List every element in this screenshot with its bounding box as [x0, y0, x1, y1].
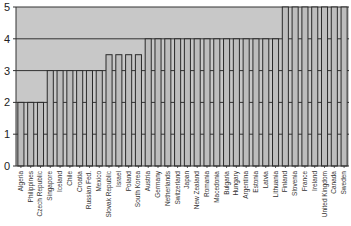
bar: [145, 39, 151, 166]
x-tick-label: Czech Republic: [36, 170, 44, 216]
x-tick-label: Romania: [203, 171, 210, 197]
bar: [214, 39, 220, 166]
y-tick-label: 5: [4, 1, 10, 13]
bar: [341, 7, 347, 166]
bar: [37, 102, 43, 166]
y-tick-label: 4: [4, 33, 10, 45]
bar: [273, 39, 279, 166]
bar: [204, 39, 210, 166]
x-axis: AlgeriaPhilippinesCzech RepublicSingapor…: [16, 166, 349, 218]
bar: [194, 39, 200, 166]
y-tick-label: 2: [4, 96, 10, 108]
x-tick-label: Israel: [115, 170, 122, 186]
x-tick-label: Croatia: [76, 171, 83, 192]
bar: [116, 55, 122, 166]
plot-background: [16, 7, 349, 166]
bar: [106, 55, 112, 166]
y-tick-label: 1: [4, 128, 10, 140]
x-tick-label: Singapore: [46, 171, 54, 201]
x-tick-label: Argentina: [242, 171, 250, 199]
x-tick-label: Estonia: [252, 171, 259, 193]
x-tick-label: Slovak Republic: [105, 170, 113, 217]
x-tick-label: Canada: [330, 171, 337, 194]
bar: [67, 71, 73, 166]
bar: [135, 55, 141, 166]
x-tick-label: Philippines: [27, 170, 35, 202]
x-tick-label: Algeria: [17, 171, 25, 192]
bar: [57, 71, 63, 166]
x-tick-label: South Korea: [134, 171, 141, 208]
y-tick-label: 3: [4, 65, 10, 77]
bar: [184, 39, 190, 166]
x-tick-label: Hungary: [232, 170, 240, 195]
x-tick-label: France: [301, 171, 308, 192]
x-tick-label: Ireland: [311, 171, 318, 191]
x-tick-label: Russian Fed.: [85, 171, 92, 209]
x-tick-label: Bulgaria: [223, 171, 231, 195]
x-tick-label: Slovenia: [291, 171, 298, 196]
x-tick-label: Netherlands: [164, 170, 171, 206]
bar: [312, 7, 318, 166]
x-tick-label: Lithuania: [272, 171, 279, 198]
x-tick-label: Chile: [66, 171, 73, 186]
bar: [77, 71, 83, 166]
bar-chart: 012345 AlgeriaPhilippinesCzech RepublicS…: [0, 0, 351, 226]
plot-area: [16, 7, 349, 166]
x-tick-label: United Kingdom: [321, 171, 329, 217]
bar: [155, 39, 161, 166]
bar: [282, 7, 288, 166]
x-tick-label: Japan: [183, 171, 191, 189]
x-tick-label: Poland: [125, 171, 132, 192]
bar: [302, 7, 308, 166]
y-tick-label: 0: [4, 160, 10, 172]
bar: [96, 71, 102, 166]
bar: [165, 39, 171, 166]
bar: [224, 39, 230, 166]
bar: [47, 71, 53, 166]
bar: [263, 39, 269, 166]
x-tick-label: Switzerland: [174, 171, 181, 205]
bar: [292, 7, 298, 166]
bar: [253, 39, 259, 166]
x-tick-label: Finland: [281, 171, 288, 193]
x-tick-label: Mexico: [95, 171, 102, 192]
x-tick-label: Germany: [154, 170, 162, 197]
x-tick-label: Iceland: [56, 171, 63, 192]
y-axis: 012345: [4, 1, 16, 172]
x-tick-label: New Zealand: [193, 171, 200, 210]
bar: [321, 7, 327, 166]
bar: [126, 55, 132, 166]
bar: [175, 39, 181, 166]
bar: [28, 102, 34, 166]
bar: [243, 39, 249, 166]
bar: [233, 39, 239, 166]
x-tick-label: Macedonia: [213, 171, 220, 203]
bar: [86, 71, 92, 166]
bar: [331, 7, 337, 166]
x-tick-label: Sweden: [340, 171, 347, 195]
x-tick-label: Latvia: [262, 171, 269, 189]
x-tick-label: Austria: [144, 171, 151, 192]
bar: [18, 102, 24, 166]
